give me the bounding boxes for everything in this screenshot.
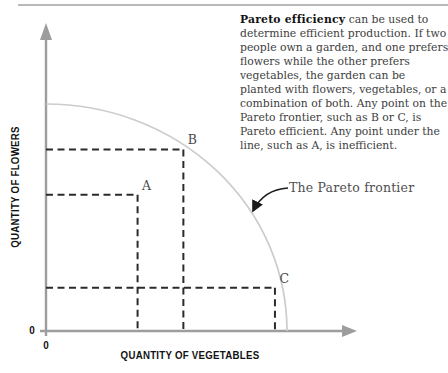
y-axis-arrowhead-icon bbox=[40, 23, 52, 40]
figure-pareto-efficiency: ABC The Pareto frontier Pareto efficienc… bbox=[0, 0, 448, 373]
y-axis-origin-label: 0 bbox=[29, 324, 35, 336]
explanatory-paragraph: Pareto efficiency can be used to determi… bbox=[240, 13, 448, 153]
paragraph-body: can be used to determine efficient produ… bbox=[240, 13, 448, 152]
paragraph-lead: Pareto efficiency bbox=[240, 13, 345, 26]
point-label-B: B bbox=[188, 132, 197, 147]
x-axis-origin-label: 0 bbox=[43, 339, 49, 351]
point-label-A: A bbox=[141, 178, 152, 193]
y-axis-title: QUANTITY OF FLOWERS bbox=[9, 126, 21, 248]
x-axis-title: QUANTITY OF VEGETABLES bbox=[121, 349, 260, 361]
points-group: ABC bbox=[46, 132, 289, 331]
x-axis-arrowhead-icon bbox=[342, 325, 357, 337]
point-label-C: C bbox=[279, 271, 289, 286]
annotation-arrow-icon bbox=[253, 188, 288, 211]
frontier-annotation-label: The Pareto frontier bbox=[289, 180, 414, 195]
